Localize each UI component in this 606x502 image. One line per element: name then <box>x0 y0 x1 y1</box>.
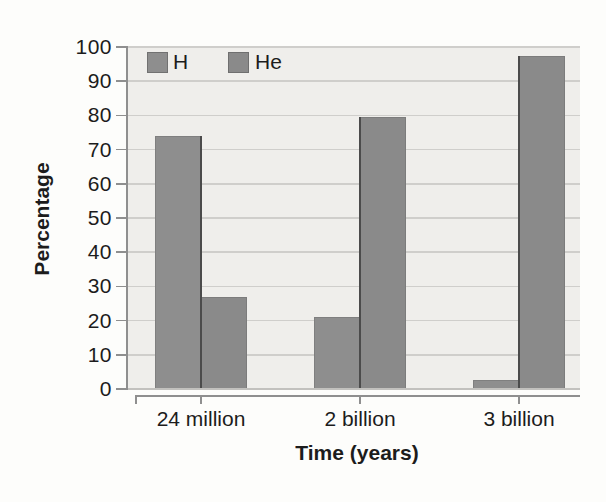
y-tick-label-90: 90 <box>64 71 112 91</box>
bar-pair-divider-24-million <box>200 136 202 389</box>
x-tick-24-million <box>200 395 202 404</box>
y-tick-20 <box>116 320 126 322</box>
bar-pair-divider-3-billion <box>518 56 520 389</box>
bar-h-2-billion <box>314 317 360 389</box>
gridline-90 <box>128 80 580 82</box>
bar-h-24-million <box>155 136 201 389</box>
x-category-label-2-billion: 2 billion <box>280 407 440 431</box>
y-tick-40 <box>116 251 126 253</box>
legend-swatch-h <box>147 52 168 73</box>
y-tick-30 <box>116 286 126 288</box>
y-tick-80 <box>116 115 126 117</box>
plot-bottom-border <box>128 388 580 390</box>
y-tick-label-30: 30 <box>64 276 112 296</box>
y-tick-100 <box>116 46 126 48</box>
y-tick-label-10: 10 <box>64 345 112 365</box>
bar-pair-divider-2-billion <box>359 117 361 389</box>
bar-he-2-billion <box>360 117 406 389</box>
x-axis-line <box>135 395 580 397</box>
y-tick-0 <box>116 388 126 390</box>
y-axis-title: Percentage <box>30 134 56 304</box>
legend-label-h: H <box>173 51 188 73</box>
x-tick-3-billion <box>518 395 520 404</box>
y-tick-label-50: 50 <box>64 208 112 228</box>
bar-he-3-billion <box>519 56 565 389</box>
y-tick-90 <box>116 80 126 82</box>
y-tick-label-100: 100 <box>64 37 112 57</box>
y-tick-label-60: 60 <box>64 174 112 194</box>
y-tick-label-40: 40 <box>64 242 112 262</box>
gridline-100 <box>128 46 580 48</box>
y-axis-line <box>126 46 128 390</box>
legend: H He <box>128 47 580 81</box>
bar-he-24-million <box>201 297 247 389</box>
x-tick-2-billion <box>359 395 361 404</box>
y-tick-label-20: 20 <box>64 311 112 331</box>
gridline-80 <box>128 115 580 117</box>
y-tick-50 <box>116 217 126 219</box>
y-tick-70 <box>116 149 126 151</box>
legend-label-he: He <box>255 51 282 73</box>
x-category-label-24-million: 24 million <box>121 407 281 431</box>
y-tick-10 <box>116 354 126 356</box>
y-tick-label-80: 80 <box>64 105 112 125</box>
legend-swatch-he <box>228 52 249 73</box>
bar-chart: Percentage H He Time (years) 01020304050… <box>0 0 606 502</box>
y-tick-label-0: 0 <box>64 379 112 399</box>
x-axis-title: Time (years) <box>247 441 467 465</box>
y-tick-label-70: 70 <box>64 140 112 160</box>
y-tick-60 <box>116 183 126 185</box>
plot-area: H He <box>128 47 580 389</box>
x-category-label-3-billion: 3 billion <box>439 407 599 431</box>
x-axis-start-tick <box>135 395 137 404</box>
